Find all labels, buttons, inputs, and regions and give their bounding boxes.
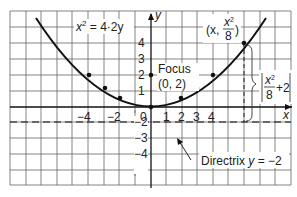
x-tick-neg2: −2 xyxy=(107,110,121,124)
y-tick-2: 2 xyxy=(138,68,145,82)
x-tick-2: 2 xyxy=(178,110,185,124)
x-tick-4: 4 xyxy=(208,110,215,124)
x-tick-1: 1 xyxy=(163,110,170,124)
distance-denominator: 8 xyxy=(266,88,273,102)
y-tick-3: 3 xyxy=(138,52,145,66)
parabola-diagram: x2 = 4·2y 4 3 2 1 −2 −3 −4 −4 −2 0 1 2 3… xyxy=(0,0,297,197)
x-tick-neg4: −4 xyxy=(77,110,91,124)
x-tick-0: 0 xyxy=(140,110,147,124)
directrix-label: Directrix y = −2 xyxy=(201,154,282,168)
y-tick-neg4: −4 xyxy=(134,147,148,161)
focus-label: Focus xyxy=(158,62,191,76)
y-tick-4: 4 xyxy=(138,36,145,50)
directrix-pointer xyxy=(179,141,191,160)
y-axis-arrow-icon xyxy=(148,13,154,20)
point-label-close: ) xyxy=(235,23,239,37)
focus-point xyxy=(149,73,154,78)
distance-brace xyxy=(246,45,256,121)
focus-coords: (0, 2) xyxy=(158,77,186,91)
x-tick-3: 3 xyxy=(193,110,200,124)
distance-plus: +2 xyxy=(276,81,290,95)
y-axis-label: y xyxy=(154,8,162,22)
y-tick-neg3: −3 xyxy=(134,131,148,145)
y-tick-1: 1 xyxy=(138,84,145,98)
point-label-open: (x, xyxy=(206,23,219,37)
x-axis-label: x xyxy=(282,108,290,122)
point-label-denominator: 8 xyxy=(225,29,232,43)
